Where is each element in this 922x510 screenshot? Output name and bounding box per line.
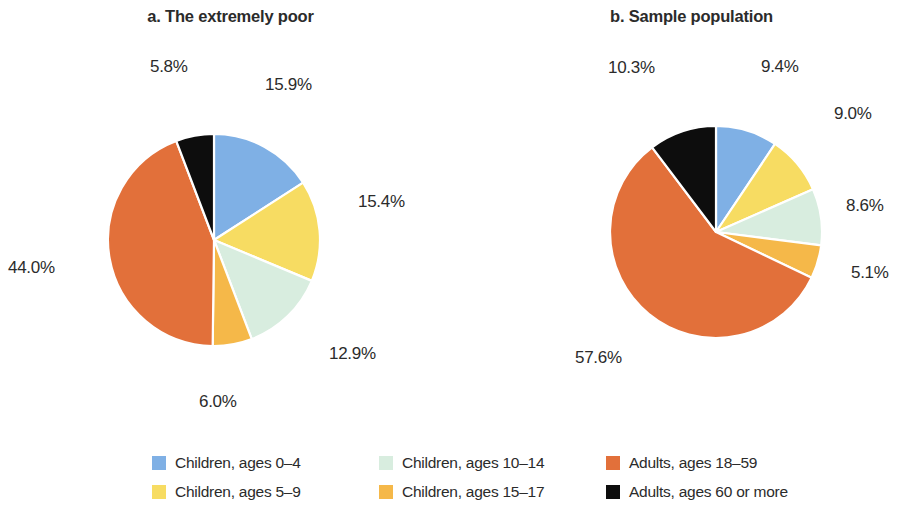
- legend-label: Children, ages 5–9: [175, 483, 301, 501]
- legend-swatch-icon: [606, 485, 620, 499]
- legend-swatch-icon: [152, 485, 166, 499]
- pie-slice-percent-label: 15.4%: [358, 192, 405, 212]
- legend-label: Children, ages 15–17: [402, 483, 544, 501]
- figure-pie-charts-poverty-age-distribution: a. The extremely poor b. Sample populati…: [0, 0, 922, 510]
- pie-slice-percent-label: 9.4%: [761, 57, 799, 77]
- pie-slice-percent-label: 5.8%: [150, 57, 188, 77]
- legend-item-adults-18-59[interactable]: Adults, ages 18–59: [606, 454, 846, 472]
- legend-label: Children, ages 0–4: [175, 454, 301, 472]
- pie-slice-percent-label: 8.6%: [846, 196, 884, 216]
- legend-label: Children, ages 10–14: [402, 454, 544, 472]
- pie-slice-percent-label: 15.9%: [265, 75, 312, 95]
- legend-item-adults-60-plus[interactable]: Adults, ages 60 or more: [606, 483, 846, 501]
- legend-swatch-icon: [606, 456, 620, 470]
- legend-swatch-icon: [379, 456, 393, 470]
- legend: Children, ages 0–4Children, ages 10–14Ad…: [0, 444, 922, 510]
- pie-chart-a: [0, 0, 461, 430]
- legend-swatch-icon: [152, 456, 166, 470]
- legend-grid: Children, ages 0–4Children, ages 10–14Ad…: [152, 448, 846, 506]
- legend-item-children-0-4[interactable]: Children, ages 0–4: [152, 454, 379, 472]
- legend-item-children-10-14[interactable]: Children, ages 10–14: [379, 454, 606, 472]
- pie-slice-percent-label: 10.3%: [608, 58, 655, 78]
- pie-slice-percent-label: 9.0%: [834, 104, 872, 124]
- legend-label: Adults, ages 60 or more: [629, 483, 788, 501]
- panel-a-extremely-poor: a. The extremely poor: [0, 0, 461, 430]
- legend-item-children-15-17[interactable]: Children, ages 15–17: [379, 483, 606, 501]
- pie-slice-percent-label: 57.6%: [575, 348, 622, 368]
- pie-slice-percent-label: 6.0%: [199, 392, 237, 412]
- legend-label: Adults, ages 18–59: [629, 454, 757, 472]
- legend-item-children-5-9[interactable]: Children, ages 5–9: [152, 483, 379, 501]
- legend-swatch-icon: [379, 485, 393, 499]
- pie-slice-percent-label: 44.0%: [8, 258, 55, 278]
- pie-slice-percent-label: 5.1%: [851, 263, 889, 283]
- pie-slice-percent-label: 12.9%: [329, 344, 376, 364]
- pie-a-svg: [0, 0, 461, 430]
